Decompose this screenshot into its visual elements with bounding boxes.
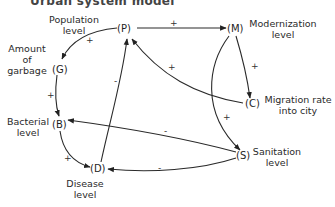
label-line: into city xyxy=(262,105,334,116)
edge-d-to-p xyxy=(101,39,127,162)
label-line: Population xyxy=(44,14,104,25)
label-line: level xyxy=(4,127,52,138)
label-line: garbage xyxy=(4,65,50,76)
causal-loop-diagram: Urban system model xyxy=(0,0,335,207)
node-g: (G) xyxy=(52,64,68,75)
label-line: level xyxy=(244,29,322,40)
label-line: of xyxy=(4,54,50,65)
label-disease: Disease level xyxy=(62,178,108,200)
sign-b-d: + xyxy=(64,154,72,163)
sign-d-p: - xyxy=(114,77,117,86)
sign-p-g: + xyxy=(86,36,94,45)
node-s: (S) xyxy=(236,150,250,161)
label-line: Bacterial xyxy=(4,116,52,127)
sign-c-p: + xyxy=(168,63,176,72)
sign-m-c: + xyxy=(251,62,259,71)
sign-g-b: + xyxy=(47,91,55,100)
label-line: Migration rate xyxy=(262,94,334,105)
label-garbage: Amount of garbage xyxy=(4,43,50,76)
edge-c-to-p xyxy=(132,39,243,103)
sign-p-m: + xyxy=(170,19,178,28)
label-population: Population level xyxy=(44,14,104,36)
edge-m-to-s xyxy=(212,36,240,150)
label-line: level xyxy=(44,25,104,36)
node-c: (C) xyxy=(245,98,260,109)
node-m: (M) xyxy=(227,23,243,34)
label-bacterial: Bacterial level xyxy=(4,116,52,138)
sign-s-d: - xyxy=(158,164,161,173)
node-b: (B) xyxy=(52,119,67,130)
label-line: Disease xyxy=(62,178,108,189)
label-line: Sanitation xyxy=(252,146,302,157)
node-d: (D) xyxy=(90,163,106,174)
edge-s-to-b xyxy=(68,120,236,152)
label-migration: Migration rate into city xyxy=(262,94,334,116)
sign-m-s: + xyxy=(223,113,231,122)
label-line: Amount xyxy=(4,43,50,54)
edge-s-to-d xyxy=(108,158,236,171)
label-line: Modernization xyxy=(244,18,322,29)
node-p: (P) xyxy=(117,23,131,34)
label-sanitation: Sanitation level xyxy=(252,146,302,168)
label-line: level xyxy=(62,189,108,200)
label-modernization: Modernization level xyxy=(244,18,322,40)
edge-m-to-c xyxy=(236,36,250,98)
edge-g-to-b xyxy=(56,75,59,116)
sign-s-b: - xyxy=(164,127,167,136)
label-line: level xyxy=(252,157,302,168)
